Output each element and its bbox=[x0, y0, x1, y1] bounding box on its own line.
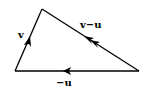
label-v-minus-u: v−u bbox=[80, 20, 101, 30]
vector-v-minus-u-arrowhead-icon-2 bbox=[90, 40, 100, 48]
label-v: v bbox=[18, 30, 24, 40]
vector-v-minus-u-arrowhead-icon bbox=[84, 36, 94, 44]
label-neg-u: −u bbox=[56, 78, 72, 88]
vector-triangle-diagram bbox=[0, 0, 146, 91]
vector-v-arrowhead-icon bbox=[24, 36, 31, 47]
